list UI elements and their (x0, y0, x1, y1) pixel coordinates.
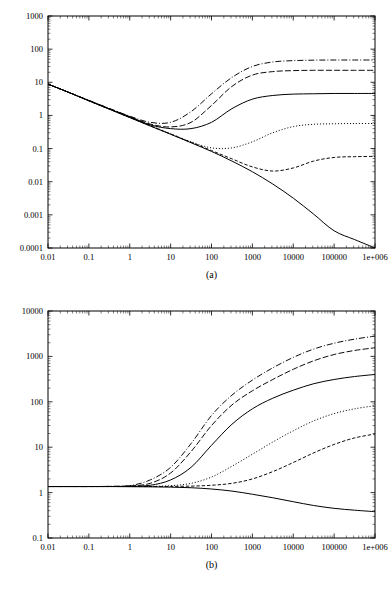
chart-panel-a: 0.010.11101001000100001000001e+0060.0001… (0, 0, 390, 296)
y-axis-tick-label: 10000 (22, 306, 43, 316)
x-axis-tick-label: 1 (128, 542, 132, 552)
x-axis-tick-label: 1000 (244, 542, 261, 552)
data-curve-curve-5-dashed-lower (48, 84, 375, 171)
data-curve-curve-2-dashed (48, 70, 375, 127)
data-curve-curve-3-solid (48, 84, 375, 129)
y-axis-tick-label: 0.01 (28, 177, 43, 187)
y-axis-tick-label: 1000 (26, 351, 43, 361)
data-curve-curve-6-solid-baseline (48, 487, 375, 512)
data-curve-curve-4-dotted (48, 406, 375, 487)
data-curve-curve-6-solid-baseline (48, 84, 375, 248)
x-axis-tick-label: 100 (205, 542, 218, 552)
x-axis-tick-label: 0.1 (84, 542, 95, 552)
x-axis-tick-label: 100000 (321, 542, 347, 552)
x-axis-tick-label: 10000 (283, 542, 304, 552)
data-curve-curve-3-solid (48, 374, 375, 486)
data-curve-curve-5-dashed-lower (48, 434, 375, 487)
x-axis-tick-label: 0.01 (41, 542, 56, 552)
x-axis-tick-label: 100 (205, 252, 218, 262)
x-axis-tick-label: 10000 (283, 252, 304, 262)
y-axis-tick-label: 0.1 (32, 533, 43, 543)
y-axis-tick-label: 1 (39, 488, 43, 498)
x-axis-tick-label: 1000 (244, 252, 261, 262)
figure-container: 0.010.11101001000100001000001e+0060.0001… (0, 0, 390, 596)
data-curve-curve-1-dashdot (48, 336, 375, 486)
data-curve-curve-1-dashdot (48, 60, 375, 123)
y-axis-tick-label: 0.1 (32, 144, 43, 154)
y-axis-tick-label: 100 (30, 44, 43, 54)
x-axis-tick-label: 0.01 (41, 252, 56, 262)
x-axis-tick-label: 10 (166, 542, 175, 552)
y-axis-tick-label: 10 (35, 77, 44, 87)
y-axis-tick-label: 1 (39, 110, 43, 120)
chart-panel-b: 0.010.11101001000100001000001e+0060.1110… (0, 296, 390, 596)
y-axis-tick-label: 1000 (26, 11, 43, 21)
y-axis-tick-label: 0.0001 (20, 243, 43, 253)
plot-frame (48, 16, 375, 248)
x-axis-tick-label: 0.1 (84, 252, 95, 262)
x-axis-tick-label: 1e+006 (362, 542, 388, 552)
x-axis-tick-label: 100000 (321, 252, 347, 262)
y-axis-tick-label: 0.001 (24, 210, 43, 220)
x-axis-tick-label: 1e+006 (362, 252, 388, 262)
plot-frame (48, 311, 375, 538)
panel-caption: (a) (206, 269, 217, 281)
panel-caption: (b) (206, 559, 218, 571)
x-axis-tick-label: 10 (166, 252, 175, 262)
y-axis-tick-label: 100 (30, 397, 43, 407)
y-axis-tick-label: 10 (35, 442, 44, 452)
x-axis-tick-label: 1 (128, 252, 132, 262)
data-curve-curve-2-dashed (48, 348, 375, 487)
chart-b-svg: 0.010.11101001000100001000001e+0060.1110… (0, 296, 390, 596)
chart-a-svg: 0.010.11101001000100001000001e+0060.0001… (0, 0, 390, 296)
